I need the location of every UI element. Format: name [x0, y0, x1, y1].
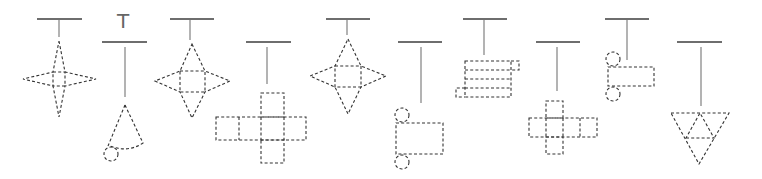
- bottom-circle: [395, 155, 409, 169]
- bottom-face: [261, 140, 284, 163]
- center-square: [53, 72, 65, 86]
- top-face: [261, 93, 284, 117]
- star-outline: [155, 44, 230, 118]
- center-square: [335, 66, 361, 87]
- inner-triangle: [686, 113, 714, 138]
- middle-dividers: [546, 118, 580, 137]
- top-circle: [606, 52, 620, 66]
- center-square: [180, 71, 205, 92]
- lateral-rectangle: [608, 67, 654, 86]
- label-t-glyph: T: [116, 9, 130, 33]
- figure-10-tetrahedron-net: [671, 42, 729, 164]
- middle-dividers: [239, 117, 284, 140]
- cone-sector: [108, 105, 143, 149]
- top-face: [546, 101, 563, 118]
- figure-2-cone-net: [102, 42, 147, 161]
- figure-7-rectangular-prism-net: [456, 19, 519, 97]
- figure-6-cylinder-net: [395, 42, 443, 169]
- figure-5-square-pyramid-net: [310, 19, 386, 114]
- star-outline: [23, 41, 96, 117]
- outer-triangle: [671, 113, 729, 164]
- figure-3-square-pyramid-net: [155, 19, 230, 118]
- cone-base-circle: [104, 147, 118, 161]
- figure-8-cube-net-small: [529, 42, 597, 154]
- hanging-nets-diagram: T: [0, 0, 762, 179]
- bottom-face: [546, 137, 563, 154]
- lateral-rectangle: [396, 123, 443, 154]
- bottom-circle: [606, 87, 620, 101]
- figure-1-slender-star-net: [23, 19, 96, 117]
- star-outline: [310, 39, 386, 114]
- face-dividers: [465, 70, 511, 88]
- top-circle: [395, 108, 409, 122]
- left-flap: [456, 88, 465, 97]
- right-flap: [511, 61, 519, 70]
- figure-9-cylinder-net-small: [605, 19, 654, 101]
- figure-4-cube-net: [216, 42, 306, 163]
